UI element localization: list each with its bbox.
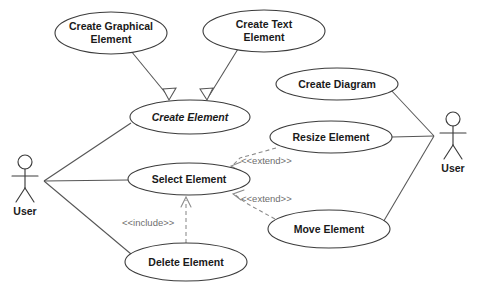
- actor-head-icon-left: [18, 155, 32, 169]
- use-case-move-element[interactable]: Move Element: [268, 210, 390, 248]
- association-group-left-actor: [44, 123, 131, 254]
- stereotype-label-extend-resize: <<extend>>: [241, 155, 292, 166]
- actor-leg-left-icon-right: [444, 145, 453, 159]
- use-case-create-text-element[interactable]: Create Text Element: [203, 10, 325, 52]
- use-case-label-create-text-element-line2: Element: [244, 31, 285, 43]
- use-case-label-select-element: Select Element: [152, 173, 227, 185]
- use-case-create-graphical-element[interactable]: Create Graphical Element: [55, 12, 167, 54]
- use-case-resize-element[interactable]: Resize Element: [270, 121, 392, 153]
- association-user-left-to-delete-element: [44, 181, 131, 254]
- use-case-label-create-graphical-element-line1: Create Graphical: [69, 20, 153, 32]
- use-case-delete-element[interactable]: Delete Element: [125, 243, 247, 281]
- stereotype-label-extend-move: <<extend>>: [241, 193, 292, 204]
- use-case-label-create-text-element-line1: Create Text: [236, 18, 293, 30]
- generalization-line-graphical: [131, 51, 168, 96]
- generalization-line-text: [209, 49, 238, 96]
- actor-label-right: User: [441, 162, 464, 174]
- actor-user-left[interactable]: User: [12, 155, 38, 217]
- use-case-diagram-canvas: Create Graphical Element Create Text Ele…: [0, 0, 482, 293]
- actor-leg-right-icon-right: [453, 145, 462, 159]
- use-case-label-delete-element: Delete Element: [148, 256, 224, 268]
- include-delete-to-select: [181, 197, 191, 243]
- association-user-right-to-resize-element: [392, 136, 434, 137]
- actor-label-left: User: [13, 205, 36, 217]
- use-case-label-move-element: Move Element: [294, 223, 365, 235]
- use-case-create-diagram[interactable]: Create Diagram: [276, 68, 398, 100]
- actor-user-right[interactable]: User: [440, 112, 466, 174]
- uml-diagram-svg: Create Graphical Element Create Text Ele…: [0, 0, 482, 293]
- generalization-graphical-to-create-element: [131, 51, 176, 100]
- use-case-label-resize-element: Resize Element: [292, 131, 370, 143]
- actor-head-icon-right: [446, 112, 460, 126]
- actor-leg-right-icon-left: [25, 188, 34, 202]
- use-case-label-create-graphical-element-line2: Element: [91, 33, 132, 45]
- use-case-select-element[interactable]: Select Element: [128, 163, 250, 195]
- association-user-left-to-select-element: [44, 180, 128, 181]
- stereotype-label-include-delete: <<include>>: [122, 217, 175, 228]
- use-case-label-create-diagram: Create Diagram: [298, 78, 376, 90]
- association-group-right-actor: [372, 73, 434, 241]
- use-case-label-create-element: Create Element: [152, 111, 229, 123]
- association-user-left-to-create-element: [44, 123, 131, 181]
- use-case-create-element[interactable]: Create Element: [130, 100, 250, 134]
- generalization-arrowhead-text: [200, 88, 213, 100]
- actor-leg-left-icon-left: [16, 188, 25, 202]
- generalization-text-to-create-element: [200, 49, 238, 100]
- generalization-arrowhead-graphical: [163, 88, 176, 100]
